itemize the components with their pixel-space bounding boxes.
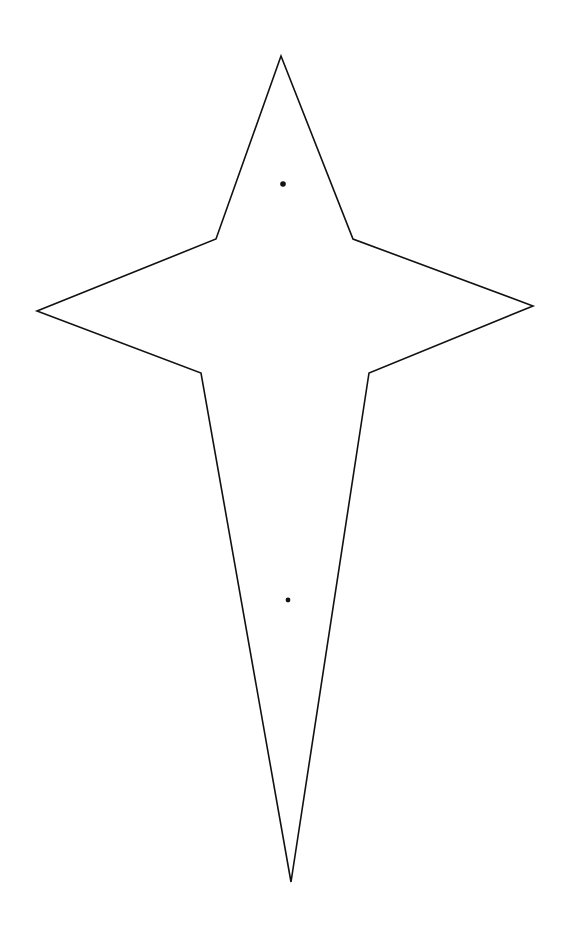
star-outline-shape xyxy=(37,56,533,882)
lower-dot xyxy=(286,598,291,603)
star-diagram-canvas xyxy=(0,0,568,934)
upper-dot xyxy=(280,181,286,187)
